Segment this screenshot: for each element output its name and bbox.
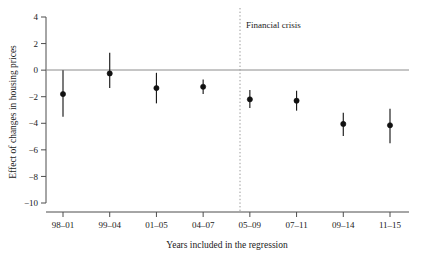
y-tick-label: −8 xyxy=(28,172,38,182)
x-tick-label: 04–07 xyxy=(192,220,215,230)
y-tick-label: −6 xyxy=(28,145,38,155)
x-tick-label: 05–09 xyxy=(239,220,262,230)
y-tick-label: −10 xyxy=(24,198,39,208)
x-tick-label: 09–14 xyxy=(332,220,355,230)
financial-crisis-label: Financial crisis xyxy=(246,20,301,30)
x-axis: 98–0199–0401–0504–0705–0907–1109–1411–15 xyxy=(46,212,409,230)
x-tick-marks xyxy=(63,212,390,217)
estimate-point-marker xyxy=(294,98,299,103)
estimate-point-marker xyxy=(247,97,252,102)
data-point-group xyxy=(154,73,159,104)
y-tick-label: 0 xyxy=(34,65,39,75)
estimate-point-marker xyxy=(60,91,65,96)
y-tick-label: 4 xyxy=(34,12,39,22)
y-tick-marks xyxy=(41,17,46,203)
x-tick-labels: 98–0199–0401–0504–0705–0907–1109–1411–15 xyxy=(52,220,402,230)
data-point-group xyxy=(387,109,392,144)
estimate-point-marker xyxy=(107,71,112,76)
data-point-group xyxy=(247,90,252,108)
errorbar-chart: 420−2−4−6−8−10 98–0199–0401–0504–0705–09… xyxy=(0,0,421,262)
estimate-point-marker xyxy=(154,85,159,90)
y-tick-label: −4 xyxy=(28,118,38,128)
chart-figure: 420−2−4−6−8−10 98–0199–0401–0504–0705–09… xyxy=(0,0,421,262)
data-point-group xyxy=(201,79,206,94)
data-point-group xyxy=(60,70,65,117)
y-tick-label: 2 xyxy=(34,39,39,49)
estimate-point-marker xyxy=(201,84,206,89)
x-tick-label: 99–04 xyxy=(98,220,121,230)
x-tick-label: 11–15 xyxy=(379,220,402,230)
data-point-group xyxy=(294,91,299,111)
x-tick-label: 98–01 xyxy=(52,220,75,230)
data-point-group xyxy=(341,113,346,136)
y-tick-label: −2 xyxy=(28,92,38,102)
data-series xyxy=(60,53,392,143)
x-axis-title: Years included in the regression xyxy=(166,240,288,250)
estimate-point-marker xyxy=(341,121,346,126)
x-tick-label: 01–05 xyxy=(145,220,168,230)
y-tick-labels: 420−2−4−6−8−10 xyxy=(24,12,39,208)
y-axis: 420−2−4−6−8−10 xyxy=(24,12,46,208)
estimate-point-marker xyxy=(387,123,392,128)
y-axis-title: Effect of changes in housing prices xyxy=(8,45,18,179)
x-tick-label: 07–11 xyxy=(285,220,307,230)
